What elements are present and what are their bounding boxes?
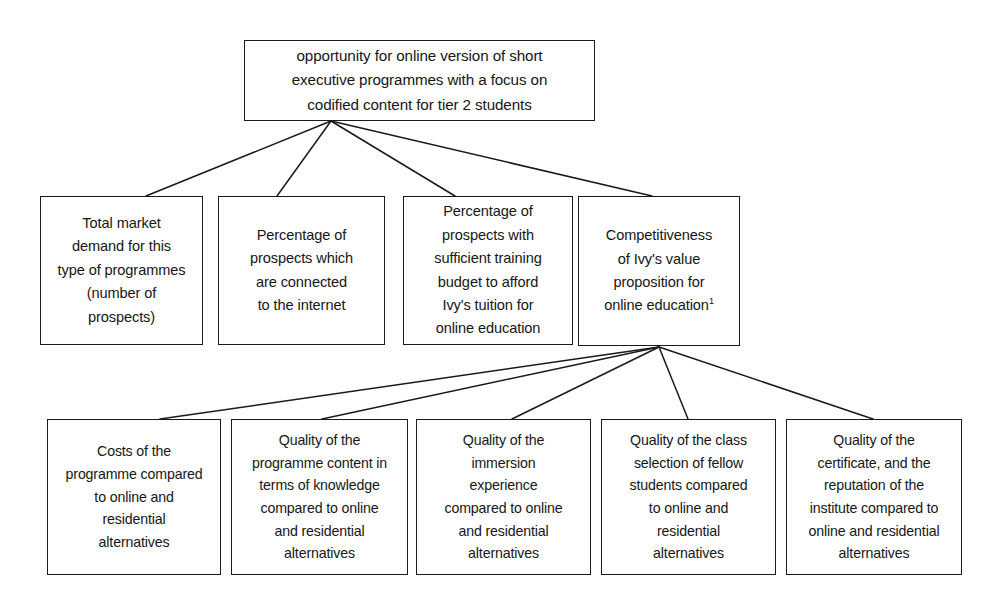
node-prospects-training-budget-label: Percentage of prospects with sufficient … xyxy=(404,200,572,340)
edge-root-to-competitiveness xyxy=(331,121,652,196)
edge-root-to-total-market-demand xyxy=(146,121,331,196)
node-competitiveness-value-proposition-label: Competitiveness of Ivy's value propositi… xyxy=(579,224,739,317)
node-quality-class-selection-label: Quality of the class selection of fellow… xyxy=(602,429,775,565)
edge-root-to-prospects-internet xyxy=(277,121,331,196)
node-costs-of-programme[interactable]: Costs of the programme compared to onlin… xyxy=(47,419,221,575)
node-quality-certificate-reputation-label: Quality of the certificate, and the repu… xyxy=(787,429,961,565)
node-total-market-demand[interactable]: Total market demand for this type of pro… xyxy=(40,196,203,345)
node-quality-immersion-experience[interactable]: Quality of the immersion experience comp… xyxy=(416,419,591,575)
node-quality-programme-content-label: Quality of the programme content in term… xyxy=(232,429,407,565)
node-prospects-training-budget[interactable]: Percentage of prospects with sufficient … xyxy=(403,196,573,345)
node-costs-of-programme-label: Costs of the programme compared to onlin… xyxy=(48,440,220,554)
edge-competitiveness-to-costs xyxy=(160,347,659,419)
footnote-marker-1: 1 xyxy=(709,296,714,306)
issue-tree-diagram: opportunity for online version of short … xyxy=(0,0,996,604)
node-root-opportunity[interactable]: opportunity for online version of short … xyxy=(244,40,595,121)
edge-competitiveness-to-immersion xyxy=(512,347,659,419)
edge-competitiveness-to-class-selection xyxy=(659,347,688,419)
edge-competitiveness-to-certificate xyxy=(659,347,873,419)
node-root-label: opportunity for online version of short … xyxy=(245,44,594,118)
node-quality-immersion-experience-label: Quality of the immersion experience comp… xyxy=(417,429,590,565)
node-competitiveness-value-proposition[interactable]: Competitiveness of Ivy's value propositi… xyxy=(578,196,740,346)
node-prospects-connected-internet[interactable]: Percentage of prospects which are connec… xyxy=(218,196,385,345)
node-quality-class-selection[interactable]: Quality of the class selection of fellow… xyxy=(601,419,776,575)
node-total-market-demand-label: Total market demand for this type of pro… xyxy=(41,212,202,329)
node-quality-certificate-reputation[interactable]: Quality of the certificate, and the repu… xyxy=(786,419,962,575)
node-prospects-connected-internet-label: Percentage of prospects which are connec… xyxy=(219,224,384,317)
edge-root-to-prospects-budget xyxy=(331,121,455,196)
edge-competitiveness-to-content-quality xyxy=(322,347,659,419)
node-competitiveness-text: Competitiveness of Ivy's value propositi… xyxy=(604,227,712,313)
node-quality-programme-content[interactable]: Quality of the programme content in term… xyxy=(231,419,408,575)
